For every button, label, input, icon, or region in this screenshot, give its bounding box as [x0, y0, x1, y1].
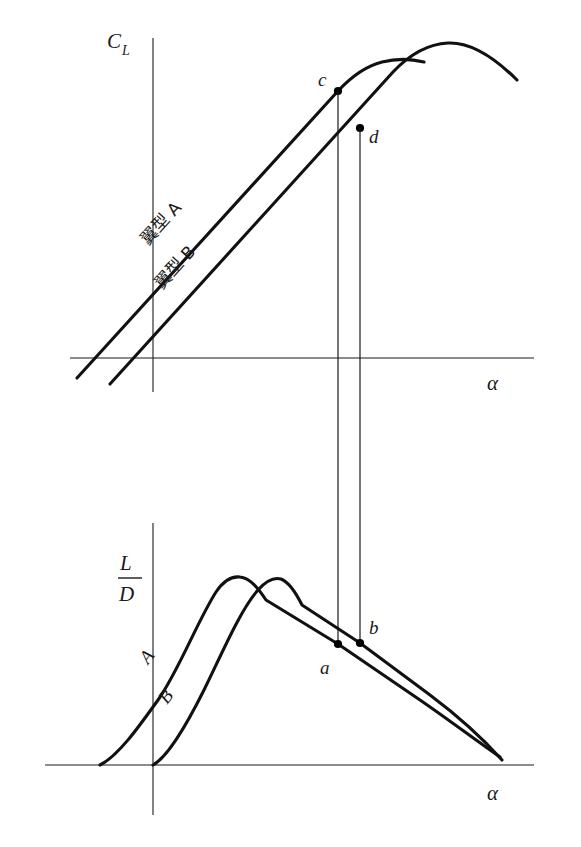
point-label-c: c [318, 69, 327, 90]
point-label-d: d [369, 126, 379, 147]
top-chart-y-axis-label: C [107, 29, 122, 53]
bottom-chart-y-axis-denominator: D [118, 582, 134, 606]
bottom-chart-x-axis-label: α [487, 781, 499, 805]
point-label-b: b [369, 617, 379, 638]
point-marker-a [334, 640, 342, 648]
point-label-a: a [320, 657, 330, 678]
aerodynamic-characteristics-figure: C L α 翼型 A 翼型 B c d L D α A B a [0, 0, 581, 847]
figure-background [0, 0, 581, 847]
top-chart-x-axis-label: α [487, 371, 499, 395]
point-marker-b [356, 639, 364, 647]
top-chart-y-axis-label-subscript: L [121, 43, 130, 58]
bottom-chart-y-axis-numerator: L [119, 551, 132, 575]
